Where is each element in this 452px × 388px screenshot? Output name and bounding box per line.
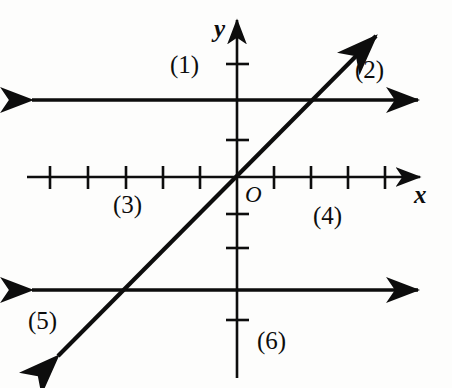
x-axis-label: x xyxy=(414,182,427,207)
graph-canvas xyxy=(0,0,452,388)
region-label-5: (5) xyxy=(28,308,57,333)
y-axis-label: y xyxy=(214,16,225,41)
coordinate-plane-figure: y x O (1) (2) (3) (4) (5) (6) xyxy=(0,0,452,388)
region-label-1: (1) xyxy=(170,52,199,77)
diagonal-line xyxy=(58,36,376,356)
region-label-2: (2) xyxy=(355,57,384,82)
region-label-6: (6) xyxy=(257,328,286,353)
region-label-3: (3) xyxy=(113,192,142,217)
origin-label: O xyxy=(245,183,262,206)
region-label-4: (4) xyxy=(313,203,342,228)
